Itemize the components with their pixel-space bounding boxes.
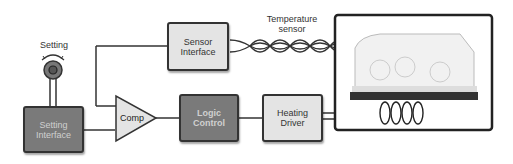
setting-label: Setting [34,40,74,50]
logic-control-line2: Control [193,118,225,128]
setting-interface-line1: Setting [36,120,71,130]
setting-interface-line2: Interface [36,130,71,140]
incubator-icon [350,34,478,100]
sensor-interface-line1: Sensor [180,37,215,47]
sensor-interface-line2: Interface [180,47,215,57]
logic-control-line1: Logic [193,108,225,118]
heating-driver-block: HeatingDriver [262,94,323,142]
comp-label: Comp [117,113,147,123]
setting-knob-icon [42,55,64,79]
logic-control-block: LogicControl [179,94,239,142]
temperature-sensor-label: Temperature sensor [252,14,332,34]
temperature-label-line2: sensor [252,24,332,34]
heating-driver-line1: Heating [277,108,308,118]
heating-driver-line2: Driver [277,118,308,128]
setting-interface-block: SettingInterface [23,106,84,153]
sensor-interface-block: SensorInterface [167,22,229,71]
temperature-label-line1: Temperature [252,14,332,24]
